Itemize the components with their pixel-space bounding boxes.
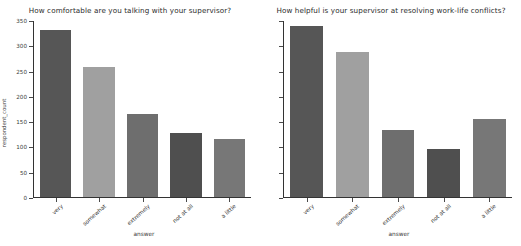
bar xyxy=(170,133,201,197)
bar xyxy=(40,30,71,197)
x-tick-label: somewhat xyxy=(335,203,361,227)
y-tick-left xyxy=(29,46,33,47)
y-tick-left xyxy=(29,21,33,22)
y-tick-label-left: 150 xyxy=(16,119,27,125)
y-tick-left xyxy=(29,198,33,199)
bar xyxy=(382,130,415,197)
bar xyxy=(127,114,158,197)
plot-area-right xyxy=(283,21,512,198)
figure-canvas: How comfortable are you talking with you… xyxy=(0,0,521,246)
y-tick-right xyxy=(279,147,283,148)
x-tick-left xyxy=(143,198,144,202)
y-tick-right xyxy=(279,97,283,98)
y-tick-label-left: 200 xyxy=(16,94,27,100)
bar-group-right xyxy=(284,21,512,197)
y-tick-right xyxy=(279,46,283,47)
chart-title-left: How comfortable are you talking with you… xyxy=(0,6,260,15)
y-tick-left xyxy=(29,173,33,174)
y-tick-label-left: 300 xyxy=(16,43,27,49)
x-axis-label-left: answer xyxy=(14,231,274,237)
y-tick-left xyxy=(29,122,33,123)
y-tick-label-left: 50 xyxy=(20,170,27,176)
x-tick-label: not at all xyxy=(429,203,452,224)
bar xyxy=(290,26,323,197)
chart-panel-left: How comfortable are you talking with you… xyxy=(0,0,260,246)
x-tick-right xyxy=(489,198,490,202)
y-tick-right xyxy=(279,122,283,123)
y-tick-right xyxy=(279,21,283,22)
x-tick-label: extremely xyxy=(126,203,151,226)
x-tick-left xyxy=(99,198,100,202)
x-tick-label: very xyxy=(50,203,63,216)
bar xyxy=(473,119,506,197)
x-tick-right xyxy=(444,198,445,202)
bar-group-left xyxy=(34,21,251,197)
x-tick-right xyxy=(307,198,308,202)
chart-title-right: How helpful is your supervisor at resolv… xyxy=(261,6,521,15)
x-tick-right xyxy=(398,198,399,202)
y-tick-label-left: 0 xyxy=(23,195,27,201)
x-tick-label: extremely xyxy=(381,203,406,226)
y-axis-label-left: respondent_count xyxy=(1,99,7,148)
bar xyxy=(83,67,114,197)
y-tick-right xyxy=(279,72,283,73)
y-tick-label-left: 100 xyxy=(16,144,27,150)
x-tick-right xyxy=(352,198,353,202)
y-tick-label-left: 350 xyxy=(16,18,27,24)
y-tick-label-left: 250 xyxy=(16,69,27,75)
x-tick-label: a little xyxy=(220,203,237,219)
bar xyxy=(214,139,245,197)
y-tick-left xyxy=(29,147,33,148)
y-tick-left xyxy=(29,97,33,98)
x-tick-label: very xyxy=(302,203,315,216)
x-tick-label: not at all xyxy=(171,203,194,224)
bar xyxy=(427,149,460,197)
plot-area-left: 050100150200250300350 xyxy=(33,21,251,198)
x-tick-left xyxy=(186,198,187,202)
y-tick-right xyxy=(279,198,283,199)
x-tick-left xyxy=(229,198,230,202)
x-tick-left xyxy=(56,198,57,202)
y-tick-left xyxy=(29,72,33,73)
bar xyxy=(336,52,369,197)
x-tick-label: somewhat xyxy=(82,203,108,227)
x-axis-label-right: answer xyxy=(269,231,521,237)
chart-panel-right: How helpful is your supervisor at resolv… xyxy=(261,0,521,246)
x-tick-label: a little xyxy=(480,203,497,219)
y-tick-right xyxy=(279,173,283,174)
